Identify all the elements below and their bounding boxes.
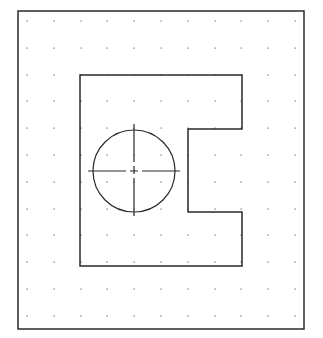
grid-dot [54,182,55,183]
grid-dot [54,75,55,76]
grid-dot [161,182,162,183]
drawing-canvas[interactable] [0,0,323,338]
grid-dot [215,262,216,263]
grid-dot [188,21,189,22]
grid-dot [27,209,28,210]
grid-dot [161,101,162,102]
grid-dot [268,48,269,49]
grid-dot [134,262,135,263]
grid-dot [295,101,296,102]
grid-dot [27,316,28,317]
grid-dot [215,101,216,102]
grid-dot [215,235,216,236]
grid-dot [215,289,216,290]
grid-dot [188,262,189,263]
grid-dots [27,21,296,317]
grid-dot [268,128,269,129]
grid-dot [188,48,189,49]
grid-dot [188,235,189,236]
grid-dot [134,235,135,236]
grid-dot [107,289,108,290]
grid-dot [107,21,108,22]
grid-dot [295,262,296,263]
grid-dot [295,75,296,76]
grid-dot [295,21,296,22]
grid-dot [161,289,162,290]
grid-dot [81,21,82,22]
grid-dot [27,262,28,263]
grid-dot [27,21,28,22]
grid-dot [27,128,28,129]
grid-dot [81,289,82,290]
grid-dot [134,48,135,49]
grid-dot [295,235,296,236]
grid-dot [268,182,269,183]
grid-dot [107,262,108,263]
grid-dot [107,101,108,102]
drawing-border [18,11,304,329]
grid-dot [268,21,269,22]
grid-dot [161,155,162,156]
grid-dot [27,182,28,183]
grid-dot [215,316,216,317]
grid-dot [54,209,55,210]
grid-dot [107,128,108,129]
grid-dot [215,48,216,49]
grid-dot [27,155,28,156]
grid-dot [295,316,296,317]
grid-dot [161,316,162,317]
grid-dot [27,101,28,102]
grid-dot [241,155,242,156]
grid-dot [161,128,162,129]
grid-dot [241,209,242,210]
grid-dot [161,262,162,263]
grid-dot [81,48,82,49]
grid-dot [107,209,108,210]
grid-dot [54,235,55,236]
grid-dot [295,155,296,156]
grid-dot [295,289,296,290]
grid-dot [268,75,269,76]
grid-dot [215,155,216,156]
grid-dot [268,209,269,210]
grid-dot [295,48,296,49]
grid-dot [54,155,55,156]
grid-dot [241,289,242,290]
grid-dot [81,316,82,317]
grid-dot [107,155,108,156]
grid-dot [134,101,135,102]
grid-dot [268,155,269,156]
grid-dot [295,209,296,210]
grid-dot [241,182,242,183]
grid-dot [241,316,242,317]
grid-dot [107,235,108,236]
grid-dot [161,209,162,210]
grid-dot [268,101,269,102]
grid-dot [161,48,162,49]
grid-dot [107,316,108,317]
grid-dot [107,48,108,49]
grid-dot [161,21,162,22]
grid-dot [268,289,269,290]
grid-dot [107,182,108,183]
grid-dot [134,316,135,317]
grid-dot [54,48,55,49]
grid-dot [54,316,55,317]
grid-dot [241,21,242,22]
grid-dot [241,48,242,49]
grid-dot [188,101,189,102]
grid-dot [295,182,296,183]
grid-dot [295,128,296,129]
grid-dot [215,21,216,22]
grid-dot [54,21,55,22]
grid-dot [268,316,269,317]
grid-dot [54,262,55,263]
grid-dot [188,316,189,317]
grid-dot [268,235,269,236]
grid-dot [54,101,55,102]
grid-dot [27,75,28,76]
grid-dot [134,21,135,22]
grid-dot [27,289,28,290]
grid-dot [54,289,55,290]
grid-dot [27,48,28,49]
